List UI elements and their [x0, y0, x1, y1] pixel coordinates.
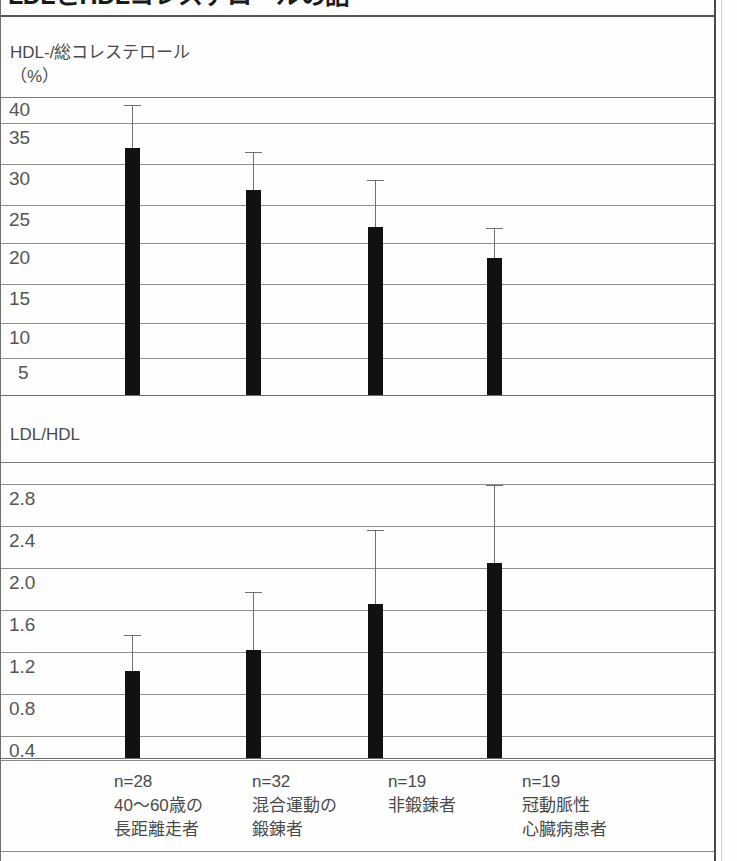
chart1-bar-1 [125, 148, 140, 395]
xaxis-group-2: n=32 混合運動の 鍛錬者 [252, 770, 337, 842]
xaxis-group-2-line3: 鍛錬者 [252, 818, 337, 842]
chart1-gridline-25 [1, 205, 714, 206]
xaxis-group-2-line2: 混合運動の [252, 794, 337, 818]
chart2-gridline-2.8 [1, 484, 714, 485]
chart1-plot-area: 40 35 30 25 20 15 10 5 [1, 88, 714, 408]
chart2-ytick-0.4: 0.4 [9, 741, 35, 760]
chart2-ytick-1.2: 1.2 [9, 657, 35, 676]
xaxis-top-divider [1, 760, 714, 761]
chart2-errorbar-line-4 [494, 485, 495, 563]
chart1-bar-3 [368, 227, 383, 395]
chart1-axis-caption-line2: （%） [10, 62, 59, 87]
chart2-bar-2 [246, 650, 261, 758]
chart2-errorbar-line-1 [132, 635, 133, 671]
chart1-gridline-10 [1, 323, 714, 324]
chart1-ytick-15: 15 [9, 289, 30, 308]
chart2-plot-area: 2.8 2.4 2.0 1.6 1.2 0.8 0.4 [1, 462, 714, 760]
chart1-top-rule [1, 97, 714, 98]
chart2-ytick-0.8: 0.8 [9, 699, 35, 718]
chart1-ytick-20: 20 [9, 248, 30, 267]
chart1-ytick-35: 35 [9, 128, 30, 147]
chart1-gridline-15 [1, 284, 714, 285]
chart2-gridline-2.0 [1, 568, 714, 569]
chart1-gridline-35 [1, 123, 714, 124]
chart1-bar-2 [246, 190, 261, 395]
xaxis-group-1-n: n=28 [114, 770, 203, 794]
xaxis-group-4-line2: 冠動脈性 [522, 794, 607, 818]
chart2-gridline-1.2 [1, 652, 714, 653]
chart1-errorbar-line-1 [132, 105, 133, 148]
chart2-axis-caption: LDL/HDL [10, 425, 80, 445]
xaxis-group-3-line2: 非鍛錬者 [388, 794, 456, 818]
xaxis-group-4: n=19 冠動脈性 心臓病患者 [522, 770, 607, 842]
frame-right-border [714, 0, 716, 861]
chart1-bar-4 [487, 258, 502, 395]
chart2-top-rule [1, 462, 714, 463]
chart2-errorbar-line-3 [375, 530, 376, 604]
chart2-gridline-0.8 [1, 694, 714, 695]
xaxis-group-2-n: n=32 [252, 770, 337, 794]
chart2-ytick-2.8: 2.8 [9, 489, 35, 508]
chart2-gridline-1.6 [1, 610, 714, 611]
chart2-ytick-1.6: 1.6 [9, 615, 35, 634]
chart1-ytick-10: 10 [9, 328, 30, 347]
title-divider [1, 15, 714, 17]
chart1-gridline-30 [1, 164, 714, 165]
chart2-ytick-2.4: 2.4 [9, 531, 35, 550]
chart1-axis-caption-line1: HDL-/総コレステロール [10, 38, 190, 63]
chart-page: LDLとHDLコレステロールの話 HDL-/総コレステロール （%） 40 35… [0, 0, 737, 861]
chart2-ytick-2.0: 2.0 [9, 573, 35, 592]
chart1-gridline-5 [1, 358, 714, 359]
xaxis-group-3: n=19 非鍛錬者 [388, 770, 456, 818]
chart2-bar-3 [368, 604, 383, 758]
xaxis-group-1-line2: 40〜60歳の [114, 794, 203, 818]
chart1-errorbar-line-4 [494, 228, 495, 258]
chart1-ytick-25: 25 [9, 210, 30, 229]
chart1-errorbar-line-2 [253, 152, 254, 190]
chart1-ytick-40: 40 [9, 100, 30, 119]
figure-bottom-divider [1, 851, 714, 852]
xaxis-group-3-n: n=19 [388, 770, 456, 794]
chart1-gridline-20 [1, 243, 714, 244]
xaxis-group-4-n: n=19 [522, 770, 607, 794]
chart2-gridline-0.4 [1, 736, 714, 737]
chart2-gridline-2.4 [1, 526, 714, 527]
chart1-errorbar-line-3 [375, 180, 376, 227]
chart2-errorbar-line-2 [253, 592, 254, 650]
chart2-baseline [1, 758, 714, 759]
xaxis-group-4-line3: 心臓病患者 [522, 818, 607, 842]
chart2-bar-4 [487, 563, 502, 758]
frame-right-outer-border [721, 0, 722, 861]
chart1-baseline [1, 395, 714, 396]
figure-title-strip: LDLとHDLコレステロールの話 [1, 0, 714, 8]
page-title: LDLとHDLコレステロールの話 [8, 0, 350, 8]
chart1-ytick-30: 30 [9, 169, 30, 188]
xaxis-group-1: n=28 40〜60歳の 長距離走者 [114, 770, 203, 842]
xaxis-group-1-line3: 長距離走者 [114, 818, 203, 842]
chart2-bar-1 [125, 671, 140, 758]
chart1-ytick-5: 5 [18, 363, 29, 382]
